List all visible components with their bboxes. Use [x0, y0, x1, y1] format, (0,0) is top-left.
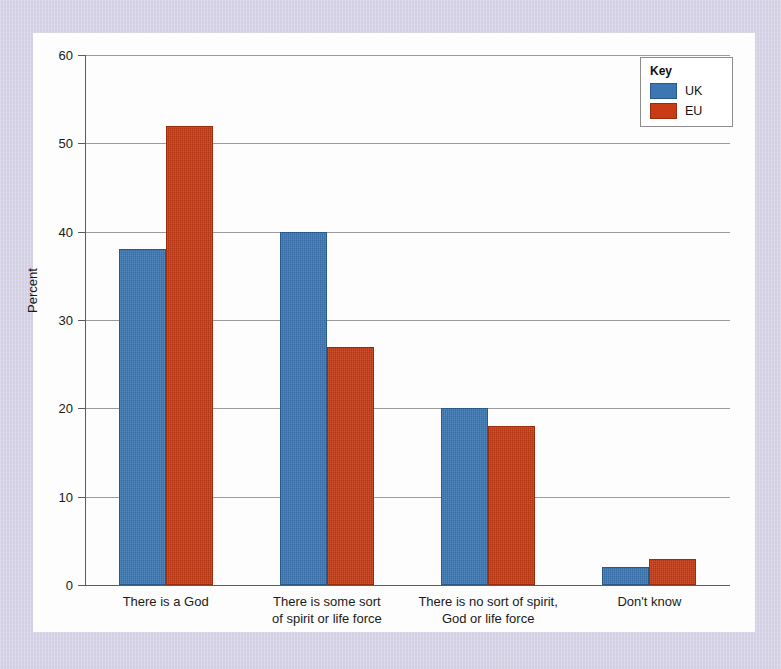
x-axis-label-line: Don't know — [569, 593, 730, 610]
legend-swatch-uk — [650, 83, 677, 99]
x-axis-label-line: of spirit or life force — [246, 610, 407, 627]
legend-entry-eu: EU — [650, 103, 722, 119]
y-axis-tick-label: 20 — [33, 401, 73, 416]
y-axis-tick-label: 60 — [33, 48, 73, 63]
y-axis-tick — [78, 585, 85, 586]
y-axis-tick-label: 10 — [33, 489, 73, 504]
legend-label-eu: EU — [685, 104, 702, 118]
bar-uk-2 — [441, 408, 488, 585]
bar-uk-1 — [280, 232, 327, 585]
legend-entries: UKEU — [650, 83, 722, 119]
x-axis-category-label: There is a God — [85, 593, 246, 610]
plot-area — [85, 55, 730, 585]
bar-eu-2 — [488, 426, 535, 585]
x-axis-label-line: There is some sort — [246, 593, 407, 610]
y-axis-tick-label: 50 — [33, 136, 73, 151]
y-axis-label: Percent — [25, 268, 40, 313]
bar-uk-0 — [119, 249, 166, 585]
legend-label-uk: UK — [685, 84, 702, 98]
bar-eu-3 — [649, 559, 696, 586]
x-axis-category-label: There is some sortof spirit or life forc… — [246, 593, 407, 627]
y-axis-line — [85, 55, 86, 586]
y-axis-tick — [78, 143, 85, 144]
gridline — [85, 55, 730, 56]
bar-eu-1 — [327, 347, 374, 586]
y-axis-tick — [78, 55, 85, 56]
y-axis-tick — [78, 232, 85, 233]
x-axis-label-line: There is no sort of spirit, — [408, 593, 569, 610]
bar-chart: 0102030405060 Percent There is a GodTher… — [33, 33, 755, 632]
x-axis-category-label: Don't know — [569, 593, 730, 610]
y-axis-tick — [78, 408, 85, 409]
y-axis-tick-label: 40 — [33, 224, 73, 239]
x-axis-line — [85, 585, 730, 586]
x-axis-category-label: There is no sort of spirit,God or life f… — [408, 593, 569, 627]
legend-title: Key — [650, 64, 722, 78]
bar-eu-0 — [166, 126, 213, 585]
x-axis-label-line: There is a God — [85, 593, 246, 610]
legend-swatch-eu — [650, 103, 677, 119]
y-axis-tick-label: 30 — [33, 313, 73, 328]
chart-card: 0102030405060 Percent There is a GodTher… — [33, 33, 755, 632]
bar-uk-3 — [602, 567, 649, 585]
y-axis-tick — [78, 320, 85, 321]
legend: Key UKEU — [640, 57, 733, 127]
y-axis-tick — [78, 497, 85, 498]
y-axis-tick-label: 0 — [33, 578, 73, 593]
x-axis-label-line: God or life force — [408, 610, 569, 627]
legend-entry-uk: UK — [650, 83, 722, 99]
